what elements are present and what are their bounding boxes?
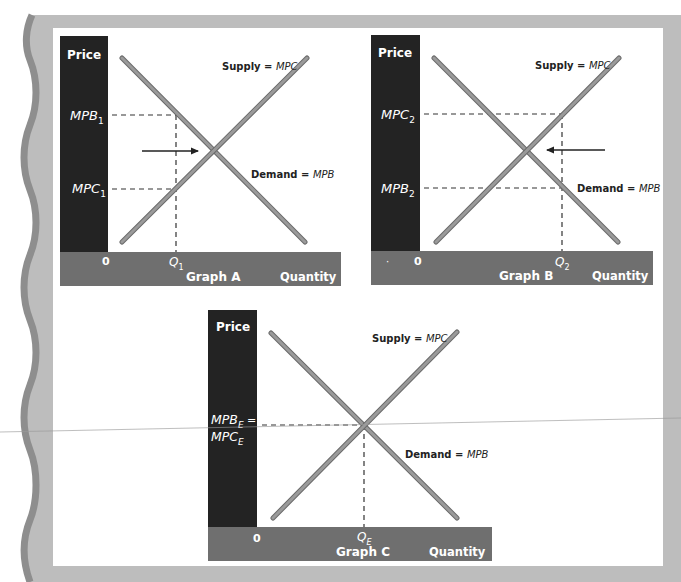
externality-graphs-figure: Price Supply = MPC Demand = MPB MPB1 MPC…	[0, 0, 681, 582]
demand-label: Demand = MPB	[405, 449, 489, 460]
quantity-axis-label: Quantity	[280, 270, 337, 284]
origin-dot: ·	[386, 256, 389, 267]
supply-label: Supply = MPC	[372, 333, 448, 344]
price-axis-label: Price	[216, 320, 250, 334]
page-frame	[24, 15, 681, 582]
origin-label: 0	[253, 532, 261, 545]
graph-caption: Graph C	[336, 545, 390, 559]
origin-label: 0	[414, 255, 422, 268]
quantity-axis-label: Quantity	[592, 269, 649, 283]
price-axis-bar	[60, 36, 108, 252]
quantity-axis-label: Quantity	[429, 545, 486, 559]
supply-label: Supply = MPC	[535, 60, 611, 71]
graph-caption: Graph A	[186, 270, 241, 284]
demand-label: Demand = MPB	[251, 169, 335, 180]
price-axis-label: Price	[67, 48, 101, 62]
demand-label: Demand = MPB	[577, 183, 661, 194]
origin-label: 0	[102, 255, 110, 268]
supply-label: Supply = MPC	[222, 61, 298, 72]
price-axis-label: Price	[378, 46, 412, 60]
graph-caption: Graph B	[499, 269, 553, 283]
price-axis-bar	[371, 35, 420, 251]
